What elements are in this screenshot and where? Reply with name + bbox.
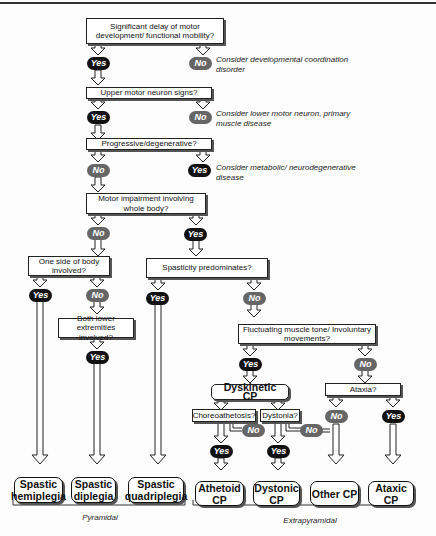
cp-classification-flowchart: Significant delay of motor development/ … [0, 0, 436, 536]
answer-yes: Yes [267, 445, 290, 458]
answer-no: No [189, 57, 212, 70]
outcome-other-cp: Other CP [310, 481, 359, 506]
outcome-spastic-hemiplegia: Spastic hemiplegia [14, 477, 63, 503]
outcome-athetoid-cp: Athetoid CP [195, 481, 244, 506]
answer-yes: Yes [239, 358, 262, 371]
answer-yes: Yes [87, 57, 110, 70]
question-motor-delay: Significant delay of motor development/ … [86, 18, 224, 44]
question-ataxia: Ataxia? [325, 383, 401, 396]
question-fluctuating-tone: Fluctuating muscle tone/ Involuntary mov… [238, 324, 376, 344]
answer-yes: Yes [210, 445, 233, 458]
group-extrapyramidal: Extrapyramidal [260, 516, 360, 525]
answer-no: No [354, 358, 377, 371]
answer-yes: Yes [29, 289, 52, 302]
outcome-spastic-diplegia: Spastic diplegia [71, 477, 116, 503]
answer-yes: Yes [86, 351, 109, 364]
answer-yes: Yes [188, 164, 211, 177]
question-upper-motor-neuron: Upper motor neuron signs? [86, 87, 212, 99]
question-one-side: One side of body involved? [28, 256, 110, 276]
answer-no: No [243, 292, 266, 305]
question-dystonia: Dystonia? [260, 409, 300, 422]
answer-yes: Yes [382, 410, 405, 423]
question-choreoathetosis: Choreoathetosis? [192, 409, 256, 422]
answer-yes: Yes [184, 228, 207, 241]
question-both-lower: Both lower extremities involved? [58, 318, 134, 338]
answer-yes: Yes [146, 292, 169, 305]
answer-no: No [242, 424, 265, 437]
note-developmental-coordination: Consider developmental coordination diso… [216, 55, 356, 74]
answer-yes: Yes [87, 111, 110, 124]
question-whole-body: Motor impairment involving whole body? [86, 193, 206, 214]
group-pyramidal: Pyramidal [60, 513, 140, 522]
note-metabolic: Consider metabolic/ neurodegenerative di… [216, 163, 366, 182]
answer-no: No [87, 227, 110, 240]
answer-no: No [189, 111, 212, 124]
answer-no: No [86, 289, 109, 302]
question-spasticity: Spasticity predominates? [146, 258, 268, 278]
outcome-dystonic-cp: Dystonic CP [253, 481, 300, 506]
answer-no: No [325, 410, 348, 423]
outcome-spastic-quadriplegia: Spastic quadriplegia [128, 477, 184, 503]
note-lower-motor-neuron: Consider lower motor neuron, primary mus… [216, 109, 366, 128]
answer-no: No [87, 164, 110, 177]
outcome-ataxic-cp: Ataxic CP [368, 481, 414, 506]
question-progressive: Progressive/degenerative? [86, 138, 212, 150]
answer-no: No [300, 424, 323, 437]
dyskinetic-cp-box: Dyskinetic CP [211, 384, 289, 400]
